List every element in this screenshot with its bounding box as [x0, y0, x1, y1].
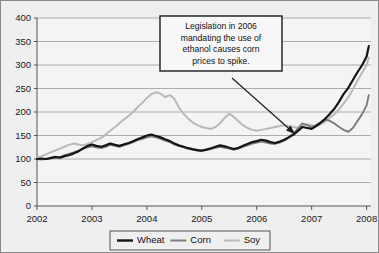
annotation-line: Legislation in 2006: [185, 21, 257, 31]
x-tick-label: 2005: [191, 213, 212, 224]
y-tick-label: 300: [15, 59, 31, 70]
legend-label: Soy: [244, 234, 261, 245]
chart-legend: WheatCornSoy: [110, 231, 270, 250]
x-tick-label: 2006: [246, 213, 267, 224]
y-tick-label: 200: [15, 106, 31, 117]
y-tick-label: 150: [15, 130, 31, 141]
legend-label: Corn: [190, 234, 211, 245]
y-tick-label: 400: [15, 12, 31, 23]
chart-canvas: 0501001502002503003504002002200320042005…: [0, 0, 379, 253]
price-index-line-chart: 0501001502002503003504002002200320042005…: [0, 0, 379, 253]
annotation-line: mandating the use of: [181, 33, 262, 43]
x-tick-label: 2004: [136, 213, 157, 224]
y-axis-ticks: 050100150200250300350400: [15, 12, 37, 211]
x-tick-label: 2003: [81, 213, 102, 224]
y-tick-label: 250: [15, 83, 31, 94]
annotation-line: ethanol causes corn: [183, 44, 260, 54]
x-axis-ticks: 2002200320042005200620072008: [26, 206, 377, 224]
x-tick-label: 2007: [301, 213, 322, 224]
x-tick-label: 2008: [356, 213, 377, 224]
y-tick-label: 50: [20, 177, 31, 188]
y-tick-label: 100: [15, 153, 31, 164]
annotation-line: prices to spike.: [192, 56, 249, 66]
legend-label: Wheat: [137, 234, 165, 245]
x-tick-label: 2002: [26, 213, 47, 224]
y-tick-label: 0: [26, 200, 31, 211]
y-tick-label: 350: [15, 36, 31, 47]
